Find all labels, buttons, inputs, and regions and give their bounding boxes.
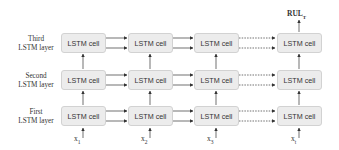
lstm-cell-l1-tt: LSTM cell [277,106,322,126]
input-subscript: 2 [145,139,148,145]
lstm-cell-l2-tt: LSTM cell [277,70,322,90]
output-label-rul: RULT [287,9,306,20]
input-subscript: 3 [211,139,214,145]
lstm-cell-l2-t3: LSTM cell [194,70,239,90]
layer-label-line: Second [14,72,58,81]
lstm-cell-l3-t2: LSTM cell [128,33,173,53]
layer-label-second: Second LSTM layer [14,72,58,89]
lstm-cell-l2-t2: LSTM cell [128,70,173,90]
layer-label-line: LSTM layer [14,81,58,90]
input-label-xt: xt [291,134,296,145]
input-label-x2: x2 [141,134,148,145]
input-label-x1: x1 [74,134,81,145]
lstm-cell-l1-t3: LSTM cell [194,106,239,126]
layer-label-line: First [14,108,58,117]
lstm-cell-l1-t1: LSTM cell [61,106,106,126]
lstm-cell-l3-t3: LSTM cell [194,33,239,53]
input-subscript: 1 [78,139,81,145]
layer-label-line: Third [14,35,58,44]
lstm-cell-l3-tt: LSTM cell [277,33,322,53]
output-base: RUL [287,9,303,18]
input-subscript: t [295,139,297,145]
layer-label-third: Third LSTM layer [14,35,58,52]
layer-label-first: First LSTM layer [14,108,58,125]
lstm-cell-l3-t1: LSTM cell [61,33,106,53]
output-subscript: T [303,15,306,20]
input-label-x3: x3 [207,134,214,145]
lstm-cell-l1-t2: LSTM cell [128,106,173,126]
lstm-cell-l2-t1: LSTM cell [61,70,106,90]
layer-label-line: LSTM layer [14,44,58,53]
layer-label-line: LSTM layer [14,117,58,126]
